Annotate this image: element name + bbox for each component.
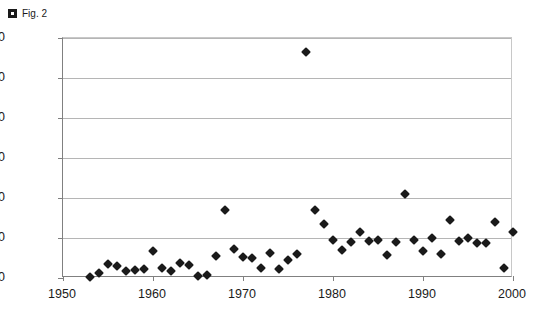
data-point (283, 255, 293, 265)
gridline (63, 158, 511, 159)
data-point (373, 235, 383, 245)
y-axis-tick-label: 10000 (0, 71, 5, 84)
x-axis-tick (333, 276, 334, 281)
data-point (346, 237, 356, 247)
data-point (328, 235, 338, 245)
x-axis-tick (513, 276, 514, 281)
data-point (463, 233, 473, 243)
data-point (130, 265, 140, 275)
data-point (427, 233, 437, 243)
y-axis-tick-label: 4000 (0, 191, 5, 204)
gridline (63, 78, 511, 79)
data-point (121, 266, 131, 276)
data-point (94, 268, 104, 278)
gridline (63, 118, 511, 119)
data-point (220, 205, 230, 215)
plot-area (62, 37, 512, 277)
data-point (229, 244, 239, 254)
data-point (292, 249, 302, 259)
x-axis-tick-label: 2000 (482, 288, 539, 301)
x-axis-tick (243, 276, 244, 281)
data-point (445, 215, 455, 225)
gridline (63, 38, 511, 39)
data-point (310, 205, 320, 215)
data-point (391, 237, 401, 247)
y-axis-tick (58, 158, 63, 159)
data-point (490, 217, 500, 227)
figure-caption: Fig. 2 (8, 6, 47, 20)
data-point (301, 47, 311, 57)
y-axis-tick (58, 198, 63, 199)
data-point (400, 189, 410, 199)
x-axis-tick-label: 1980 (302, 288, 362, 301)
x-axis-tick-label: 1960 (122, 288, 182, 301)
x-axis-tick (423, 276, 424, 281)
y-axis-tick (58, 238, 63, 239)
data-point (499, 263, 509, 273)
figure-caption-label: Fig. 2 (22, 8, 47, 19)
x-axis-tick (153, 276, 154, 281)
data-point (436, 249, 446, 259)
data-point (364, 236, 374, 246)
data-point (103, 259, 113, 269)
gridlines (63, 38, 511, 276)
data-point (274, 264, 284, 274)
data-point (202, 270, 212, 280)
bullet-square-icon (8, 9, 17, 18)
data-point (481, 238, 491, 248)
y-axis-tick (58, 118, 63, 119)
y-axis-tick-label: 12000 (0, 31, 5, 44)
data-point (148, 246, 158, 256)
data-point (355, 227, 365, 237)
data-point (508, 227, 518, 237)
x-axis-tick-label: 1950 (32, 288, 92, 301)
x-axis-tick (63, 276, 64, 281)
data-point (193, 271, 203, 281)
x-axis-tick-label: 1990 (392, 288, 452, 301)
x-axis-tick-label: 1970 (212, 288, 272, 301)
gridline (63, 238, 511, 239)
data-point (166, 266, 176, 276)
data-point (409, 235, 419, 245)
data-point (382, 250, 392, 260)
data-point (184, 260, 194, 270)
y-axis-tick-label: 0 (0, 271, 5, 284)
y-axis-tick-label: 8000 (0, 111, 5, 124)
data-point (265, 248, 275, 258)
figure-container: Fig. 2 020004000600080001000012000 19501… (0, 0, 539, 316)
data-point (211, 251, 221, 261)
gridline (63, 198, 511, 199)
data-point (337, 245, 347, 255)
data-point (418, 246, 428, 256)
data-point (112, 261, 122, 271)
data-point (319, 219, 329, 229)
data-point (256, 263, 266, 273)
data-point (247, 253, 257, 263)
data-point (175, 258, 185, 268)
data-point (139, 264, 149, 274)
y-axis-tick (58, 38, 63, 39)
data-point (85, 272, 95, 282)
data-point (157, 263, 167, 273)
y-axis-tick (58, 78, 63, 79)
y-axis-tick-label: 2000 (0, 231, 5, 244)
y-axis-tick-label: 6000 (0, 151, 5, 164)
